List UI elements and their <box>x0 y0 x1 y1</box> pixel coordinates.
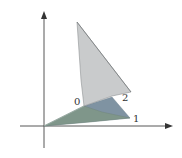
x-axis-arrow-icon <box>165 123 173 129</box>
label-1: 1 <box>133 114 139 124</box>
label-2: 2 <box>122 93 128 103</box>
y-axis-arrow-icon <box>41 11 47 19</box>
label-0: 0 <box>74 97 80 107</box>
diagram-canvas <box>0 0 182 158</box>
